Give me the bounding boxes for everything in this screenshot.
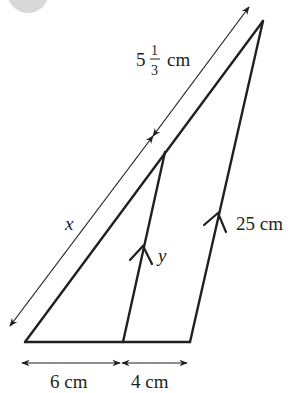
label-25cm: 25 cm	[236, 213, 283, 234]
x-segment-arrow	[10, 136, 153, 326]
label-6cm: 6 cm	[50, 371, 88, 392]
top-segment-arrow	[153, 7, 249, 136]
fraction-unit: cm	[167, 49, 190, 70]
parallel-marks	[130, 213, 226, 264]
fraction-whole: 5	[136, 49, 146, 70]
label-x: x	[64, 213, 74, 234]
label-y: y	[156, 245, 167, 266]
diagram: 5 1 3 cm x y 25 cm 6 cm 4 cm	[0, 0, 297, 393]
fraction-numerator: 1	[151, 43, 158, 58]
label-4cm: 4 cm	[131, 371, 169, 392]
label-top-segment: 5 1 3 cm	[136, 43, 190, 78]
fraction-denominator: 3	[151, 63, 158, 78]
corner-badge	[7, 0, 49, 13]
